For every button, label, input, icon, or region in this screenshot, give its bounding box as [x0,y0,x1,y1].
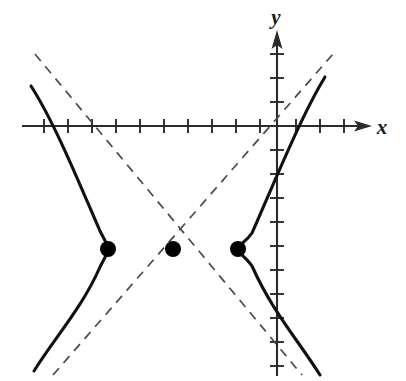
x-axis-label: x [376,115,388,139]
hyperbola-figure: x y [0,0,406,381]
marked-points [100,241,246,257]
asymptote-negative-slope [35,54,302,375]
graph-canvas: x y [0,0,406,381]
center-point [165,241,181,257]
right-vertex-point [230,241,246,257]
left-vertex-point [100,241,116,257]
y-axis-label: y [268,5,281,29]
asymptote-positive-slope [53,54,333,375]
right-branch [238,77,325,375]
hyperbola-branches [31,77,325,375]
axes-group [22,30,372,376]
